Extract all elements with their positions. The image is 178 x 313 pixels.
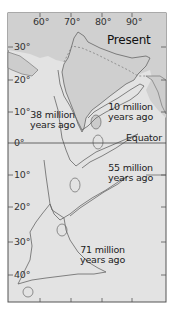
age-label-71mya-line2: years ago — [80, 255, 125, 265]
longitude-label-90: 90° — [126, 17, 142, 27]
latitude-label-30s: 30° — [14, 237, 30, 247]
age-label-55mya: 55 million years ago — [108, 163, 153, 183]
age-label-71mya: 71 million years ago — [80, 245, 125, 265]
longitude-label-70: 70° — [64, 17, 80, 27]
age-label-55mya-line2: years ago — [108, 173, 153, 183]
age-label-38mya-line2: years ago — [30, 120, 75, 130]
latitude-label-10s: 10° — [14, 170, 30, 180]
longitude-label-80: 80° — [95, 17, 111, 27]
longitude-label-60: 60° — [33, 17, 49, 27]
age-label-10mya: 10 million years ago — [108, 102, 153, 122]
latitude-label-10n: 10° — [14, 107, 30, 117]
latitude-label-20s: 20° — [14, 202, 30, 212]
map-title-present: Present — [107, 35, 151, 45]
latitude-label-30n: 30° — [14, 42, 30, 52]
latitude-label-40s: 40° — [14, 270, 30, 280]
age-label-10mya-line2: years ago — [108, 112, 153, 122]
latitude-label-0: 0° — [14, 138, 24, 148]
equator-label: Equator — [126, 133, 162, 143]
age-label-38mya: 38 million years ago — [30, 110, 75, 130]
latitude-label-20n: 20° — [14, 75, 30, 85]
